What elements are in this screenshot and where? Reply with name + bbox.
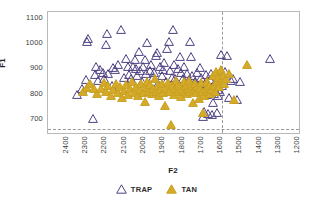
x-axis-tick-labels: 2400230022002100200019001800170016001500… <box>47 136 300 166</box>
x-tick-label: 1900 <box>157 136 166 154</box>
x-tick-label: 2400 <box>61 136 70 154</box>
y-tick-label: 1000 <box>26 38 44 47</box>
x-tick-label: 1400 <box>254 136 263 154</box>
x-tick-label: 2100 <box>119 136 128 154</box>
x-tick-label: 2300 <box>80 136 89 154</box>
x-tick-label: 1200 <box>292 136 301 154</box>
plot-area <box>48 12 299 133</box>
triangle-open-icon <box>116 184 127 194</box>
chart-legend: TRAPTAN <box>0 184 313 194</box>
y-tick-label: 700 <box>30 113 43 122</box>
x-tick-label: 2000 <box>138 136 147 154</box>
horizontal-reference-line <box>48 129 299 130</box>
legend-item-trap[interactable]: TRAP <box>116 184 153 194</box>
triangle-filled-icon <box>166 184 177 194</box>
y-tick-label: 800 <box>30 88 43 97</box>
x-axis-title: F2 <box>168 166 177 175</box>
x-tick-label: 1700 <box>196 136 205 154</box>
x-tick-label: 1600 <box>215 136 224 154</box>
x-tick-label: 1800 <box>177 136 186 154</box>
plot-frame <box>47 11 300 134</box>
x-tick-label: 1500 <box>234 136 243 154</box>
legend-label: TRAP <box>131 185 153 194</box>
x-tick-label: 2200 <box>99 136 108 154</box>
y-tick-label: 900 <box>30 63 43 72</box>
legend-item-tan[interactable]: TAN <box>166 184 197 194</box>
x-tick-label: 1300 <box>273 136 282 154</box>
y-axis-tick-labels: 70080090010001100 <box>0 11 47 134</box>
y-tick-label: 1100 <box>26 13 43 22</box>
legend-label: TAN <box>181 185 197 194</box>
scatter-plot-figure: F1 70080090010001100 2400230022002100200… <box>0 0 313 206</box>
